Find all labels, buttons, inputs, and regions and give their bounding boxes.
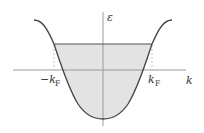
minus-kf-label: −k — [40, 73, 56, 86]
k-axis-label: k — [186, 74, 193, 87]
kf-subscript: F — [155, 79, 160, 88]
band-diagram: ε k −k F k F — [0, 0, 204, 133]
epsilon-axis-label: ε — [107, 11, 113, 24]
kf-label: k — [148, 73, 155, 86]
minus-kf-subscript: F — [55, 79, 60, 88]
diagram-svg: ε k −k F k F — [0, 0, 204, 133]
